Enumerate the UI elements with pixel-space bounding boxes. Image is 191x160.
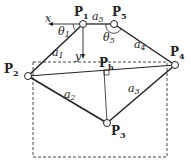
label-x-axis: x (45, 12, 52, 25)
label-a1: a1 (52, 46, 64, 60)
five-bar-linkage-diagram: P1 P5 P2 P4 P3 Ph a1 a2 a3 a4 a5 θ1 θ5 x… (0, 0, 191, 160)
theta1-arc (73, 24, 76, 31)
label-a5: a5 (92, 10, 104, 24)
line-p3-ph (104, 70, 107, 123)
joint-p2 (25, 73, 32, 80)
label-theta1: θ1 (58, 25, 70, 39)
link-a3 (107, 65, 175, 123)
label-p4: P4 (170, 45, 185, 61)
label-a2: a2 (64, 88, 76, 102)
joint-p5 (111, 21, 118, 28)
label-ph: Ph (99, 56, 114, 72)
label-p1: P1 (74, 5, 89, 21)
label-a3: a3 (128, 82, 140, 96)
joint-p3 (104, 120, 111, 127)
joint-p1 (80, 21, 87, 28)
joint-p4 (172, 62, 179, 69)
label-p3: P3 (111, 124, 126, 140)
label-a4: a4 (134, 38, 146, 52)
label-y-axis: y (74, 50, 82, 63)
label-p2: P2 (4, 62, 19, 78)
label-p5: P5 (112, 5, 127, 21)
workspace-rectangle (33, 62, 167, 157)
y-axis-arrow-icon (81, 54, 85, 59)
